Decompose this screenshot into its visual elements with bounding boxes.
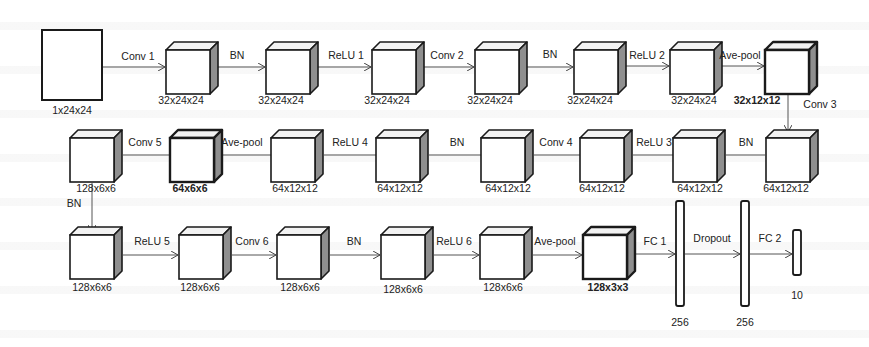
cube-side-face — [223, 227, 231, 279]
edge-label: BN — [347, 235, 362, 247]
input-shape-label: 1x24x24 — [52, 104, 92, 116]
cube-front-face — [70, 235, 114, 279]
cube-shape-label: 64x12x12 — [485, 182, 531, 194]
cube-front-face — [673, 138, 717, 182]
feature-map-cube — [480, 227, 532, 279]
nodes-layer — [42, 30, 818, 306]
feature-map-cube — [574, 42, 626, 94]
cube-shape-label: 64x12x12 — [377, 182, 423, 194]
cube-side-face — [525, 130, 533, 182]
cube-side-face — [114, 130, 122, 182]
feature-map-cube — [381, 227, 433, 279]
cube-shape-label: 32x24x24 — [258, 94, 304, 106]
feature-map-cube — [673, 130, 725, 182]
feature-map-cube — [277, 227, 329, 279]
feature-map-cube — [179, 227, 231, 279]
feature-map-cube — [580, 130, 632, 182]
cube-side-face — [809, 42, 817, 94]
cube-shape-label: 32x12x12 — [734, 94, 781, 106]
edge-label: Conv 1 — [121, 50, 154, 62]
cube-front-face — [166, 50, 210, 94]
edge-label: BN — [450, 136, 465, 148]
cube-shape-label: 32x24x24 — [567, 94, 613, 106]
cube-side-face — [321, 227, 329, 279]
cube-side-face — [618, 42, 626, 94]
cube-front-face — [266, 50, 310, 94]
cube-shape-label: 32x24x24 — [671, 94, 717, 106]
cube-front-face — [583, 235, 627, 279]
feature-map-cube — [481, 130, 533, 182]
cube-shape-label: 128x3x3 — [588, 281, 629, 293]
feature-map-cube — [670, 42, 722, 94]
cube-front-face — [475, 50, 519, 94]
feature-map-cube — [166, 42, 218, 94]
cube-shape-label: 128x6x6 — [180, 281, 220, 293]
edge-label: ReLU 1 — [328, 49, 364, 61]
cube-front-face — [765, 50, 809, 94]
edge-label: Ave-pool — [221, 136, 262, 148]
fc-size-label: 10 — [791, 289, 803, 301]
cnn-architecture-diagram: Conv 1BNReLU 1Conv 2BNReLU 2Ave-poolConv… — [0, 0, 869, 347]
cube-shape-label: 128x6x6 — [72, 281, 112, 293]
cube-side-face — [310, 42, 318, 94]
edge-label: Conv 4 — [539, 136, 572, 148]
feature-map-cube — [271, 130, 323, 182]
cube-shape-label: 32x24x24 — [364, 94, 410, 106]
edge-label: BN — [739, 136, 754, 148]
cube-side-face — [624, 130, 632, 182]
cube-front-face — [170, 138, 214, 182]
edge-label: FC 1 — [644, 235, 667, 247]
edge-label: ReLU 6 — [436, 235, 472, 247]
cube-front-face — [179, 235, 223, 279]
feature-map-cube — [372, 42, 424, 94]
fc-size-label: 256 — [671, 316, 689, 328]
feature-map-cube — [765, 42, 817, 94]
feature-map-cube — [70, 227, 122, 279]
feature-map-cube — [266, 42, 318, 94]
edge-label: ReLU 5 — [134, 235, 170, 247]
cube-side-face — [627, 227, 635, 279]
cube-front-face — [480, 235, 524, 279]
cube-side-face — [315, 130, 323, 182]
cube-shape-label: 128x6x6 — [280, 281, 320, 293]
edge-label: Conv 5 — [128, 136, 161, 148]
cube-front-face — [277, 235, 321, 279]
cube-shape-label: 64x6x6 — [172, 182, 207, 194]
feature-map-cube — [70, 130, 122, 182]
edge-label: ReLU 4 — [332, 136, 368, 148]
cube-shape-label: 64x12x12 — [579, 182, 625, 194]
cube-front-face — [481, 138, 525, 182]
edge-label: ReLU 3 — [636, 136, 672, 148]
cube-shape-label: 128x6x6 — [383, 283, 423, 295]
feature-map-cube — [583, 227, 635, 279]
cube-front-face — [372, 50, 416, 94]
fc-layer-out — [793, 230, 801, 275]
cube-shape-label: 128x6x6 — [76, 182, 116, 194]
cube-side-face — [114, 227, 122, 279]
cube-front-face — [271, 138, 315, 182]
cube-side-face — [425, 227, 433, 279]
fc-layer-fc2 — [741, 201, 749, 306]
cube-front-face — [670, 50, 714, 94]
edge-label: Conv 3 — [803, 98, 836, 110]
cube-side-face — [416, 42, 424, 94]
feature-map-cube — [170, 130, 222, 182]
cube-shape-label: 64x12x12 — [272, 182, 318, 194]
fc-layer-fc1 — [676, 201, 684, 306]
cube-side-face — [717, 130, 725, 182]
cube-side-face — [420, 130, 428, 182]
cube-front-face — [70, 138, 114, 182]
cube-shape-label: 64x12x12 — [677, 182, 723, 194]
cube-front-face — [574, 50, 618, 94]
edge-label: Ave-pool — [534, 235, 575, 247]
cube-front-face — [580, 138, 624, 182]
cube-front-face — [381, 235, 425, 279]
edge-label: Ave-pool — [719, 49, 760, 61]
cube-shape-label: 32x24x24 — [467, 94, 513, 106]
feature-map-cube — [376, 130, 428, 182]
cube-side-face — [519, 42, 527, 94]
cube-shape-label: 128x6x6 — [483, 281, 523, 293]
cube-side-face — [524, 227, 532, 279]
cube-front-face — [376, 138, 420, 182]
edge-label: Dropout — [693, 232, 730, 244]
